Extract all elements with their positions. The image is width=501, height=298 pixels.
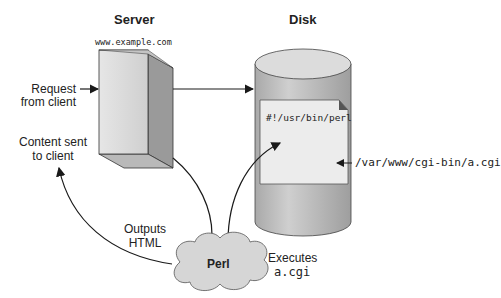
executes-label-line1: Executes xyxy=(268,251,317,265)
content-label-line2: to client xyxy=(8,149,98,163)
perl-label: Perl xyxy=(207,257,230,271)
cgi-diagram: Server www.example.com Disk #!/usr/bin/p… xyxy=(0,0,501,298)
content-label-line1: Content sent xyxy=(8,135,98,149)
shebang-line: #!/usr/bin/perl xyxy=(266,111,352,125)
server-box xyxy=(99,50,173,168)
outputs-label-line1: Outputs xyxy=(120,222,170,236)
executes-label-line2: a.cgi xyxy=(274,265,310,279)
disk-title: Disk xyxy=(289,13,316,27)
server-hostname: www.example.com xyxy=(95,35,172,49)
server-to-perl-line xyxy=(173,158,212,235)
request-label-line1: Request xyxy=(10,82,76,96)
script-path: /var/www/cgi-bin/a.cgi xyxy=(355,156,501,170)
request-label-line2: from client xyxy=(10,95,76,109)
outputs-label-line2: HTML xyxy=(120,236,170,250)
server-title: Server xyxy=(114,13,154,27)
